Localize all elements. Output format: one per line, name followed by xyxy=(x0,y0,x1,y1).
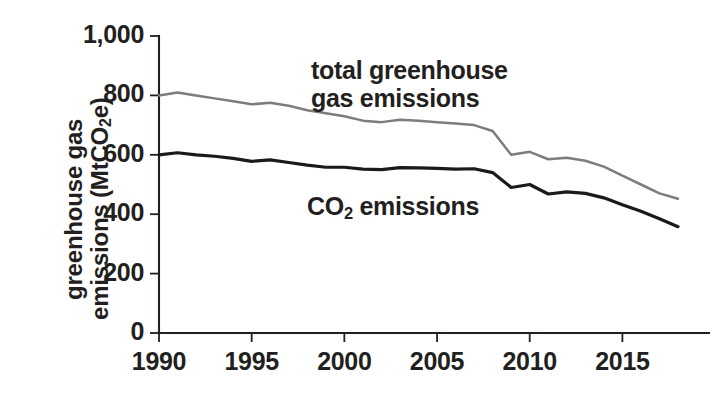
y-axis-tick-label: 1,000 xyxy=(83,20,144,49)
annotation-co2-subscript: 2 xyxy=(344,204,353,222)
y-axis-title-line2: emissions (MtCO2e) xyxy=(86,97,114,320)
x-axis-tick-label: 2015 xyxy=(577,347,667,376)
x-axis-tick-label: 1990 xyxy=(114,347,204,376)
annotation-co2-prefix: CO xyxy=(307,192,344,220)
y-axis-ticks xyxy=(150,36,159,333)
annotation-co2-suffix: emissions xyxy=(353,192,479,220)
x-axis-tick-label: 2010 xyxy=(485,347,575,376)
annotation-co2: CO2 emissions xyxy=(307,192,479,220)
y-axis-title-suffix: e) xyxy=(86,97,113,118)
y-axis-title-prefix: emissions (MtCO xyxy=(86,127,113,320)
x-axis-tick-label: 2000 xyxy=(299,347,389,376)
x-axis-ticks xyxy=(159,333,622,342)
y-axis-title-line1: greenhouse gas xyxy=(60,119,88,300)
annotation-total-ghg-line1: total greenhouse xyxy=(311,56,508,84)
emissions-line-chart: 02004006008001,000 199019952000200520102… xyxy=(0,0,717,397)
annotation-total-ghg-line2: gas emissions xyxy=(311,84,508,112)
y-axis-title-subscript: 2 xyxy=(97,118,114,127)
x-axis-tick-label: 2005 xyxy=(392,347,482,376)
x-axis-tick-label: 1995 xyxy=(207,347,297,376)
annotation-total-ghg: total greenhouse gas emissions xyxy=(311,56,508,112)
y-axis-tick-label: 0 xyxy=(130,317,144,346)
